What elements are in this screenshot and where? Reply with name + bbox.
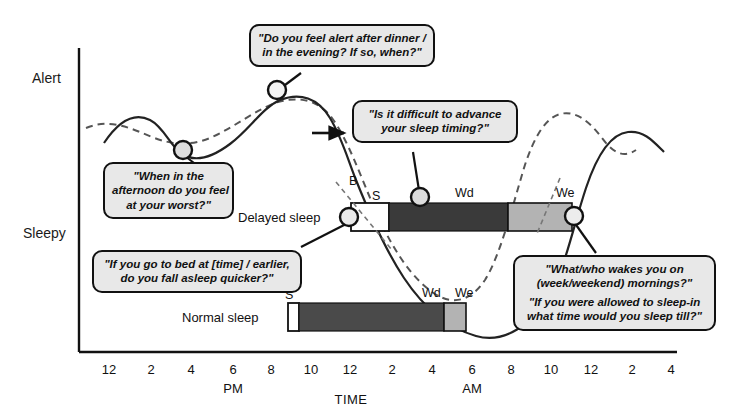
x-tick-1: 2 bbox=[138, 362, 164, 377]
x-axis-title: TIME bbox=[321, 392, 381, 407]
leader-earlier-bedtime bbox=[301, 222, 350, 247]
y-axis-label-sleepy: Sleepy bbox=[23, 225, 66, 241]
callout-earlier-bedtime-line2: do you fall asleep quicker?" bbox=[101, 271, 293, 285]
x-tick-13: 2 bbox=[619, 362, 645, 377]
callout-evening-alertness-line1: "Do you feel alert after dinner / bbox=[258, 31, 426, 45]
x-tick-6: 12 bbox=[337, 362, 363, 377]
marker-sleep-midpoint[interactable] bbox=[411, 188, 429, 206]
callout-advance-sleep-timing-line1: "Is it difficult to advance bbox=[361, 107, 509, 121]
callout-morning-wake-line3: "If you were allowed to sleep-in bbox=[522, 295, 707, 309]
callout-morning-wake-line4: what time would you sleep till?" bbox=[522, 309, 707, 323]
delayed-marker-S: S bbox=[372, 189, 380, 203]
delayed-marker-B: B bbox=[349, 174, 357, 188]
x-tick-4: 8 bbox=[258, 362, 284, 377]
callout-afternoon-worst-line3: at your worst?" bbox=[112, 198, 225, 212]
normal-sleep-label: Normal sleep bbox=[182, 310, 259, 325]
x-tick-9: 6 bbox=[459, 362, 485, 377]
callout-morning-wake-line1: "What/who wakes you on bbox=[522, 262, 707, 276]
x-tick-3: 6 bbox=[220, 362, 246, 377]
callout-morning-wake-line2: (week/weekend) mornings?" bbox=[522, 276, 707, 290]
normal-marker-Wd: Wd bbox=[422, 286, 441, 300]
x-tick-14: 4 bbox=[658, 362, 684, 377]
callout-earlier-bedtime[interactable]: "If you go to bed at [time] / earlier, d… bbox=[92, 250, 302, 293]
x-tick-5: 10 bbox=[298, 362, 324, 377]
callout-earlier-bedtime-line1: "If you go to bed at [time] / earlier, bbox=[101, 257, 293, 271]
x-tick-11: 10 bbox=[538, 362, 564, 377]
delayed-bar-sleep-segment bbox=[389, 203, 508, 231]
x-axis-period-am: AM bbox=[452, 381, 492, 396]
callout-morning-wake-para2: "If you were allowed to sleep-in what ti… bbox=[522, 295, 707, 324]
delayed-marker-Wd: Wd bbox=[455, 186, 474, 200]
leader-morning-wake bbox=[574, 222, 596, 253]
x-axis-period-pm: PM bbox=[213, 381, 253, 396]
x-tick-0: 12 bbox=[96, 362, 122, 377]
normal-marker-We: We bbox=[455, 286, 474, 300]
callout-evening-alertness-line2: in the evening? If so, when?" bbox=[258, 45, 426, 59]
diagram-root: Alert Sleepy 12 2 4 6 8 10 12 2 4 6 8 10… bbox=[0, 0, 741, 415]
marker-bedtime[interactable] bbox=[340, 208, 358, 226]
callout-advance-sleep-timing[interactable]: "Is it difficult to advance your sleep t… bbox=[352, 100, 518, 143]
normal-bar-weekend-segment bbox=[444, 303, 466, 331]
x-tick-10: 8 bbox=[498, 362, 524, 377]
callout-afternoon-worst-line1: "When in the bbox=[112, 169, 225, 183]
y-axis-label-alert: Alert bbox=[32, 70, 61, 86]
marker-wake-time[interactable] bbox=[565, 207, 583, 225]
normal-bar-sleep-segment bbox=[299, 303, 444, 331]
x-tick-2: 4 bbox=[178, 362, 204, 377]
delayed-marker-We: We bbox=[556, 186, 575, 200]
normal-bar-latency-segment bbox=[288, 303, 299, 331]
delayed-bar-weekend-segment bbox=[508, 203, 572, 231]
callout-afternoon-worst-line2: afternoon do you feel bbox=[112, 183, 225, 197]
delayed-sleep-label: Delayed sleep bbox=[238, 210, 320, 225]
callout-morning-wake-para1: "What/who wakes you on (week/weekend) mo… bbox=[522, 262, 707, 291]
marker-afternoon-dip[interactable] bbox=[174, 141, 192, 159]
x-tick-8: 4 bbox=[419, 362, 445, 377]
callout-evening-alertness[interactable]: "Do you feel alert after dinner / in the… bbox=[249, 24, 435, 67]
callout-afternoon-worst[interactable]: "When in the afternoon do you feel at yo… bbox=[103, 162, 234, 219]
callout-advance-sleep-timing-line2: your sleep timing?" bbox=[361, 121, 509, 135]
x-tick-7: 2 bbox=[379, 362, 405, 377]
marker-evening-alert[interactable] bbox=[268, 81, 286, 99]
callout-morning-wake[interactable]: "What/who wakes you on (week/weekend) mo… bbox=[513, 255, 716, 331]
x-tick-12: 12 bbox=[578, 362, 604, 377]
